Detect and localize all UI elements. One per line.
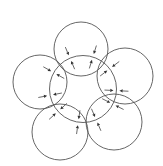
petal-circles: [13, 22, 153, 160]
arrowhead-icon: [119, 89, 122, 92]
arrowhead-icon: [93, 51, 96, 55]
central-circle: [50, 56, 117, 123]
outer-arrow-top: [93, 46, 96, 55]
outer-arrow-left: [43, 67, 51, 71]
inner-arrow-lower-right: [91, 109, 95, 117]
inner-arrow-upper-right: [104, 89, 113, 92]
outer-arrow-lower-right: [116, 105, 124, 109]
arrowhead-icon: [78, 116, 81, 119]
petal-circle-left: [13, 55, 67, 109]
outer-arrow-upper-right: [119, 89, 128, 92]
contact-pressure-diagram: [0, 0, 163, 166]
outer-arrow-lower-left: [49, 113, 56, 119]
outer-arrow-left: [38, 95, 47, 98]
inner-arrow-left: [53, 93, 62, 96]
arrowhead-icon: [76, 125, 79, 128]
outer-arrow-top: [65, 47, 69, 55]
inner-arrow-top: [89, 60, 92, 69]
pressure-arrows: [38, 46, 128, 135]
arrowhead-icon: [53, 93, 56, 96]
arrowhead-icon: [110, 89, 113, 92]
arrowhead-icon: [44, 95, 47, 98]
outer-arrow-lower-right: [97, 123, 101, 131]
inner-arrow-upper-right: [100, 71, 107, 76]
inner-arrow-top: [71, 61, 75, 69]
outer-arrow-lower-left: [76, 125, 79, 134]
petal-circle-top: [54, 22, 108, 76]
inner-arrow-left: [56, 74, 64, 78]
outer-arrow-upper-right: [112, 61, 119, 66]
arrowhead-icon: [90, 60, 93, 64]
